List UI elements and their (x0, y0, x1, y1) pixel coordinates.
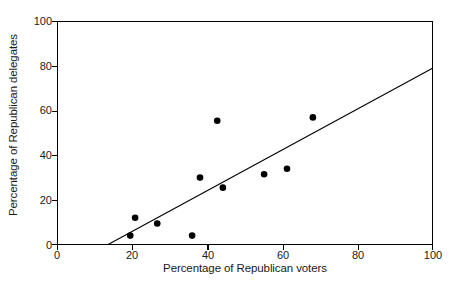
data-point-group (127, 114, 316, 239)
trend-line (108, 68, 432, 244)
data-point (154, 220, 161, 227)
data-point (132, 214, 139, 221)
y-axis-ticks (52, 22, 57, 245)
plot-area (0, 0, 453, 290)
x-axis-ticks (58, 245, 433, 250)
axes-frame (57, 21, 433, 245)
data-point (261, 171, 268, 178)
data-point (220, 184, 227, 191)
data-point (214, 117, 221, 124)
data-point (127, 232, 134, 239)
data-point (310, 114, 317, 121)
scatter-plot-figure: Percentage of Republican delegates Perce… (0, 0, 453, 290)
data-point (189, 232, 196, 239)
data-point (197, 174, 204, 181)
data-point (284, 165, 291, 172)
